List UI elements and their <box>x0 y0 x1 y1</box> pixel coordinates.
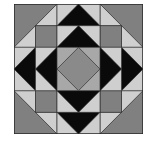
corner-square-top-left <box>36 26 58 48</box>
quilt-block <box>14 4 143 134</box>
corner-square-bottom-right <box>100 91 122 113</box>
quilt-block-svg <box>14 4 143 134</box>
corner-square-top-right <box>100 26 122 48</box>
corner-square-bottom-left <box>36 91 58 113</box>
